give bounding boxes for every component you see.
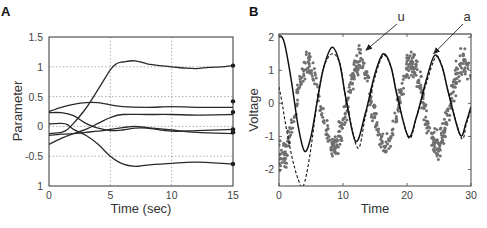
scatter-point [457, 75, 460, 78]
x-tick-label: 0 [276, 189, 282, 201]
scatter-point [410, 66, 413, 69]
scatter-point [337, 145, 340, 148]
scatter-point [320, 112, 323, 115]
scatter-point [353, 63, 356, 66]
scatter-point [322, 107, 325, 110]
scatter-point [299, 80, 302, 83]
scatter-point [462, 70, 465, 73]
scatter-point [379, 138, 382, 141]
scatter-point [305, 50, 308, 53]
scatter-point [441, 139, 444, 142]
scatter-point [353, 59, 356, 62]
scatter-point [327, 140, 330, 143]
scatter-point [456, 67, 459, 70]
scatter-point [358, 51, 361, 54]
scatter-point [392, 128, 395, 131]
scatter-point [411, 57, 414, 60]
scatter-point [284, 143, 287, 146]
scatter-point [296, 102, 299, 105]
scatter-point [339, 121, 342, 124]
scatter-point [395, 119, 398, 122]
scatter-point [439, 142, 442, 145]
scatter-point [454, 80, 457, 83]
scatter-point [419, 70, 422, 73]
scatter-point [397, 110, 400, 113]
scatter-point [286, 154, 289, 157]
y-tick-label: -2 [265, 163, 274, 175]
scatter-point [296, 84, 299, 87]
scatter-point [337, 135, 340, 138]
scatter-point [416, 60, 419, 63]
scatter-point [444, 135, 447, 138]
scatter-point [464, 73, 467, 76]
y-tick-label: -0.5 [25, 150, 43, 162]
scatter-point [462, 54, 465, 57]
x-tick-label: 20 [401, 189, 413, 201]
scatter-point [367, 75, 370, 78]
x-tick-label: 30 [465, 189, 477, 201]
scatter-point [448, 119, 451, 122]
scatter-point [304, 78, 307, 81]
panel-b-label: B [249, 4, 258, 19]
y-tick-label: 1 [37, 180, 43, 192]
panel-b-plot-area [278, 36, 473, 188]
scatter-point [365, 71, 368, 74]
annotation-label-u: u [397, 9, 404, 24]
scatter-point [432, 149, 435, 152]
x-tick-label: 15 [227, 189, 239, 201]
y-tick-label: 2 [268, 31, 274, 43]
y-tick-label: 1.5 [28, 31, 43, 43]
scatter-point [413, 72, 416, 75]
scatter-point [453, 85, 456, 88]
scatter-point [358, 44, 361, 47]
scatter-point [439, 155, 442, 158]
scatter-point [383, 149, 386, 152]
scatter-point [415, 63, 418, 66]
y-tick-label: -1 [265, 130, 274, 142]
scatter-point [402, 93, 405, 96]
scatter-point [431, 135, 434, 138]
scatter-point [416, 68, 419, 71]
scatter-point [296, 99, 299, 102]
scatter-point [302, 69, 305, 72]
scatter-point [407, 58, 410, 61]
scatter-point [410, 60, 413, 63]
scatter-point [377, 130, 380, 133]
scatter-point [424, 123, 427, 126]
scatter-point [374, 125, 377, 128]
line-param3 [49, 114, 233, 144]
scatter-point [463, 47, 466, 50]
scatter-point [402, 87, 405, 90]
scatter-point [406, 54, 409, 57]
scatter-point [318, 109, 321, 112]
scatter-point [419, 88, 422, 91]
scatter-point [405, 73, 408, 76]
panel-b-chart: 0102030210-1-2 [265, 31, 477, 201]
scatter-point [407, 63, 410, 66]
scatter-point [285, 162, 288, 165]
scatter-point [459, 47, 462, 50]
x-tick-label: 5 [107, 189, 113, 201]
scatter-point [327, 127, 330, 130]
scatter-point [410, 51, 413, 54]
scatter-point [445, 121, 448, 124]
scatter-point [352, 88, 355, 91]
scatter-point [304, 62, 307, 65]
scatter-point [289, 134, 292, 137]
scatter-point [389, 135, 392, 138]
scatter-point [352, 73, 355, 76]
scatter-point [380, 146, 383, 149]
scatter-point [298, 86, 301, 89]
y-tick-label: 0.5 [28, 91, 43, 103]
scatter-point [380, 142, 383, 145]
scatter-point [430, 131, 433, 134]
scatter-point [386, 132, 389, 135]
scatter-point [332, 141, 335, 144]
y-tick-label: 1 [268, 64, 274, 76]
scatter-point [455, 59, 458, 62]
scatter-point [466, 78, 469, 81]
scatter-point [345, 118, 348, 121]
scatter-point [342, 117, 345, 120]
scatter-point [328, 135, 331, 138]
scatter-point [369, 103, 372, 106]
